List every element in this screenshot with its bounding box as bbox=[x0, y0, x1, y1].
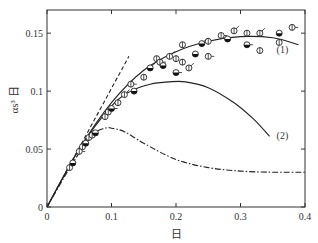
x-tick-label: 0 bbox=[45, 211, 50, 222]
data-point-tail bbox=[236, 26, 239, 29]
curve-label: (1) bbox=[277, 44, 289, 56]
plot-frame bbox=[47, 10, 305, 207]
x-tick-label: 0.2 bbox=[170, 211, 183, 222]
y-axis-label: αs³ 日 bbox=[8, 86, 20, 113]
x-axis-label: 日 bbox=[171, 228, 182, 240]
curve-label: (2) bbox=[277, 130, 289, 142]
data-point-tail bbox=[262, 28, 265, 31]
y-tick-label: 0.1 bbox=[31, 86, 44, 97]
annotations: (1)(2) bbox=[277, 44, 289, 142]
data-markers bbox=[67, 24, 299, 170]
x-tick-label: 0.3 bbox=[234, 211, 247, 222]
y-tick-label: 0 bbox=[38, 202, 43, 213]
chart: 00.10.20.30.400.050.10.15 日 αs³ 日 (1)(2) bbox=[0, 0, 318, 243]
y-tick-label: 0.05 bbox=[26, 144, 44, 155]
x-tick-label: 0.4 bbox=[299, 211, 312, 222]
x-tick-label: 0.1 bbox=[105, 211, 118, 222]
y-tick-label: 0.15 bbox=[26, 28, 44, 39]
axis-labels: 日 αs³ 日 bbox=[8, 86, 182, 240]
curve-1-line bbox=[47, 36, 299, 207]
data-point-tail bbox=[191, 63, 194, 66]
axis-ticks: 00.10.20.30.400.050.10.15 bbox=[26, 10, 312, 222]
plot-area bbox=[47, 24, 305, 207]
